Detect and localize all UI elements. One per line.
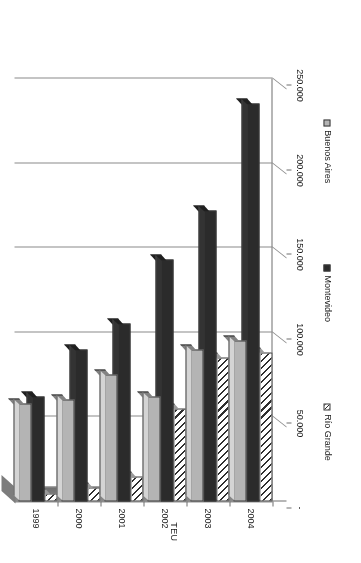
- category-tick-mark: [229, 501, 230, 506]
- bar-2004-montevideo: [246, 103, 259, 501]
- bar-group: [186, 78, 229, 501]
- legend-label-buenos-aires: Buenos Aires: [322, 130, 332, 183]
- value-tick-mark: [286, 253, 291, 254]
- category-tick-mark: [143, 501, 144, 506]
- category-tick-mark: [186, 501, 187, 506]
- bar-rect: [216, 357, 229, 501]
- value-axis-title: TEU: [168, 522, 178, 541]
- bar-rect: [130, 476, 143, 501]
- bar-2000-montevideo: [74, 349, 87, 501]
- category-label-1999: 1999: [30, 505, 40, 531]
- value-tick-mark: [286, 338, 291, 339]
- bar-1999-r-o-grande: [44, 493, 57, 501]
- bar-rect: [203, 210, 216, 501]
- bar-rect: [74, 349, 87, 501]
- chart-legend: Buenos Aires Montevideo Río Grande: [318, 78, 336, 501]
- bar-2001-montevideo: [117, 323, 130, 501]
- value-tick-label-4: 200.000: [294, 149, 304, 191]
- bar-group: [14, 78, 57, 501]
- plot-area: [14, 78, 272, 501]
- legend-item-buenos-aires: Buenos Aires: [322, 119, 332, 183]
- value-tick-label-1: 50.000: [294, 402, 304, 444]
- bar-rect: [190, 349, 203, 501]
- chart-figure: - 50.000 100.000 150.000 200.000 250.000…: [0, 0, 361, 563]
- bar-rect: [233, 340, 246, 501]
- legend-item-rio-grande: Río Grande: [322, 403, 332, 461]
- category-label-2003: 2003: [202, 505, 212, 531]
- legend-item-montevideo: Montevideo: [322, 264, 332, 322]
- value-tick-mark: [286, 169, 291, 170]
- buenos-aires-swatch-icon: [324, 119, 331, 126]
- bar-group: [57, 78, 100, 501]
- bar-2002-montevideo: [160, 259, 173, 501]
- value-tick-mark: [286, 507, 291, 508]
- category-label-2001: 2001: [116, 505, 126, 531]
- category-label-2002: 2002: [159, 505, 169, 531]
- bar-rect: [61, 399, 74, 501]
- bar-rect: [104, 374, 117, 501]
- bar-group: [100, 78, 143, 501]
- bar-rect: [87, 487, 100, 501]
- legend-label-montevideo: Montevideo: [322, 275, 332, 322]
- value-tick-label-2: 100.000: [294, 318, 304, 360]
- bar-2003-montevideo: [203, 210, 216, 501]
- bar-2000-r-o-grande: [87, 487, 100, 501]
- bar-rect: [117, 323, 130, 501]
- bar-1999-montevideo: [31, 396, 44, 501]
- bar-rect: [44, 493, 57, 501]
- bar-rect: [31, 396, 44, 501]
- category-label-2004: 2004: [245, 505, 255, 531]
- bar-rect: [147, 396, 160, 501]
- bar-group: [143, 78, 186, 501]
- value-tick-mark: [286, 84, 291, 85]
- bar-rect: [246, 103, 259, 501]
- montevideo-swatch-icon: [324, 264, 331, 271]
- bar-rect: [173, 408, 186, 501]
- category-tick-mark: [100, 501, 101, 506]
- bar-2004-buenos-aires: [233, 340, 246, 501]
- value-tick-mark: [286, 422, 291, 423]
- bar-rect: [18, 403, 31, 501]
- bar-2002-buenos-aires: [147, 396, 160, 501]
- bar-1999-buenos-aires: [18, 403, 31, 501]
- bar-2002-r-o-grande: [173, 408, 186, 501]
- bar-2001-r-o-grande: [130, 476, 143, 501]
- value-tick-label-3: 150.000: [294, 233, 304, 275]
- category-tick-mark: [57, 501, 58, 506]
- bar-2004-r-o-grande: [259, 352, 272, 501]
- category-tick-mark: [272, 501, 273, 506]
- category-label-2000: 2000: [73, 505, 83, 531]
- bar-2003-buenos-aires: [190, 349, 203, 501]
- value-tick-label-5: 250.000: [294, 64, 304, 106]
- value-tick-label-0: -: [294, 505, 304, 510]
- legend-label-rio-grande: Río Grande: [322, 414, 332, 461]
- bar-2003-r-o-grande: [216, 357, 229, 501]
- bar-2000-buenos-aires: [61, 399, 74, 501]
- rio-grande-swatch-icon: [324, 403, 331, 410]
- bar-rect: [259, 352, 272, 501]
- chart-floor: [272, 78, 286, 501]
- bar-rect: [160, 259, 173, 501]
- bar-group: [229, 78, 272, 501]
- bar-2001-buenos-aires: [104, 374, 117, 501]
